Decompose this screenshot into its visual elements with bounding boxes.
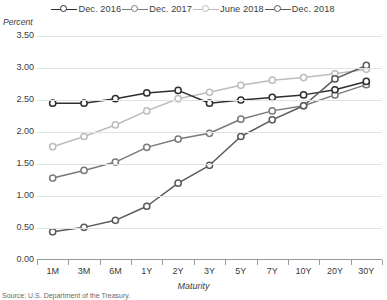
legend-item-dec-2016[interactable]: Dec. 2016 <box>51 4 122 15</box>
legend-marker-icon <box>193 4 219 15</box>
data-point[interactable] <box>50 100 56 106</box>
x-tick-label: 20Y <box>327 266 343 276</box>
series-june-2018 <box>50 66 370 150</box>
y-tick-label: 2.50 <box>3 94 34 104</box>
x-tick-mark <box>257 260 258 265</box>
data-point[interactable] <box>144 203 150 209</box>
data-point[interactable] <box>269 117 275 123</box>
x-tick-mark <box>37 260 38 265</box>
legend-marker-icon <box>122 4 148 15</box>
data-point[interactable] <box>175 136 181 142</box>
x-tick-label: 1Y <box>141 266 152 276</box>
y-tick-label: 0.00 <box>3 254 34 264</box>
x-tick-label: 3Y <box>204 266 215 276</box>
data-point[interactable] <box>206 100 212 106</box>
legend-marker-icon <box>51 4 77 15</box>
data-point[interactable] <box>175 87 181 93</box>
gridline <box>37 132 382 133</box>
data-point[interactable] <box>50 144 56 150</box>
data-point[interactable] <box>238 133 244 139</box>
plot-area <box>37 36 382 260</box>
gridline <box>37 164 382 165</box>
data-point[interactable] <box>50 175 56 181</box>
x-tick-mark <box>382 260 383 265</box>
data-point[interactable] <box>206 89 212 95</box>
x-axis-title: Maturity <box>0 281 387 291</box>
x-tick-label: 5Y <box>235 266 246 276</box>
chart-container: Dec. 2016Dec. 2017June 2018Dec. 2018 Per… <box>0 0 387 300</box>
data-point[interactable] <box>238 116 244 122</box>
x-tick-label: 3M <box>78 266 91 276</box>
x-tick-label: 7Y <box>267 266 278 276</box>
x-tick-mark <box>194 260 195 265</box>
x-tick-label: 2Y <box>173 266 184 276</box>
chart-legend: Dec. 2016Dec. 2017June 2018Dec. 2018 <box>0 2 387 16</box>
legend-item-june-2018[interactable]: June 2018 <box>193 4 265 15</box>
y-tick-label: 0.50 <box>3 222 34 232</box>
legend-label: June 2018 <box>219 4 265 14</box>
y-tick-label: 1.00 <box>3 190 34 200</box>
data-point[interactable] <box>300 103 306 109</box>
legend-label: Dec. 2016 <box>77 4 122 14</box>
data-point[interactable] <box>332 87 338 93</box>
x-axis-tick-labels: 1M3M6M1Y2Y3Y5Y7Y10Y20Y30Y <box>37 266 382 280</box>
x-tick-mark <box>68 260 69 265</box>
x-tick-mark <box>131 260 132 265</box>
x-tick-label: 30Y <box>358 266 374 276</box>
data-point[interactable] <box>144 144 150 150</box>
data-point[interactable] <box>300 75 306 81</box>
gridline <box>37 36 382 37</box>
gridline <box>37 196 382 197</box>
y-axis-title: Percent <box>3 17 33 27</box>
gridline <box>37 100 382 101</box>
x-tick-mark <box>100 260 101 265</box>
x-tick-mark <box>225 260 226 265</box>
y-axis-tick-labels: 0.000.501.001.502.002.503.003.50 <box>0 36 34 260</box>
series-dec-2018 <box>50 62 370 235</box>
legend-item-dec-2018[interactable]: Dec. 2018 <box>265 4 336 15</box>
data-point[interactable] <box>332 76 338 82</box>
data-point[interactable] <box>112 122 118 128</box>
data-point[interactable] <box>81 133 87 139</box>
legend-item-dec-2017[interactable]: Dec. 2017 <box>122 4 193 15</box>
series-lines <box>37 36 382 260</box>
data-point[interactable] <box>112 217 118 223</box>
x-tick-mark <box>162 260 163 265</box>
legend-label: Dec. 2018 <box>291 4 336 14</box>
data-point[interactable] <box>144 90 150 96</box>
data-point[interactable] <box>300 92 306 98</box>
y-tick-label: 3.00 <box>3 62 34 72</box>
data-point[interactable] <box>144 108 150 114</box>
x-tick-label: 10Y <box>296 266 312 276</box>
gridline <box>37 68 382 69</box>
data-point[interactable] <box>363 78 369 84</box>
data-point[interactable] <box>50 229 56 235</box>
y-tick-label: 2.00 <box>3 126 34 136</box>
x-tick-mark <box>288 260 289 265</box>
y-tick-label: 3.50 <box>3 30 34 40</box>
x-tick-label: 1M <box>46 266 59 276</box>
data-point[interactable] <box>81 100 87 106</box>
y-tick-label: 1.50 <box>3 158 34 168</box>
x-tick-mark <box>319 260 320 265</box>
source-note: Source: U.S. Department of the Treasury. <box>2 292 130 299</box>
data-point[interactable] <box>81 167 87 173</box>
gridline <box>37 228 382 229</box>
data-point[interactable] <box>269 77 275 83</box>
x-tick-label: 6M <box>109 266 122 276</box>
legend-label: Dec. 2017 <box>148 4 193 14</box>
legend-marker-icon <box>265 4 291 15</box>
data-point[interactable] <box>269 108 275 114</box>
x-tick-mark <box>351 260 352 265</box>
data-point[interactable] <box>238 82 244 88</box>
data-point[interactable] <box>175 180 181 186</box>
